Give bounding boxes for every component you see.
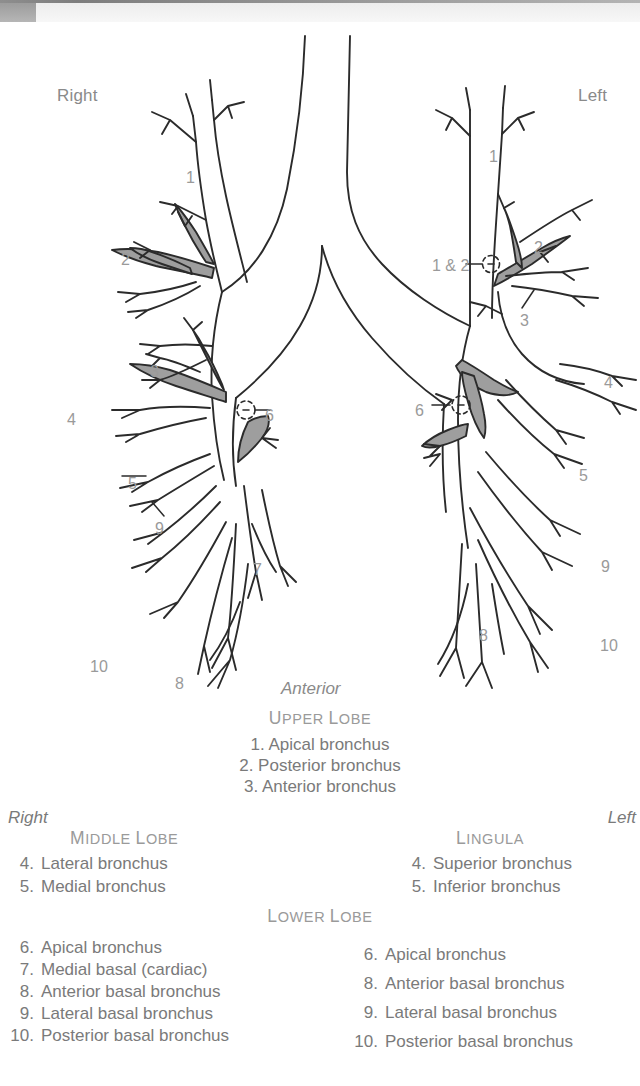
right-branch-e (140, 344, 212, 354)
legend-heading-lower-lobe: LOWER LOBE (0, 906, 640, 927)
legend-item: 1. Apical bronchus (0, 735, 640, 755)
legend-lower-right-items: 6.Apical bronchus7.Medial basal (cardiac… (8, 938, 308, 1046)
legend-item: 6.Apical bronchus (8, 938, 308, 958)
legend-item-number: 6. (8, 938, 34, 958)
legend-item-label: Posterior basal bronchus (385, 1032, 573, 1052)
legend-item-label: Anterior basal bronchus (385, 974, 565, 994)
left-upper-branch-e (520, 200, 592, 242)
legend-left-lingula-column: Left LINGULA 4.Superior bronchus5.Inferi… (400, 808, 636, 900)
heading-rest-lobe2: OBE (146, 831, 178, 847)
callout-number-l-10: 10 (600, 638, 618, 654)
figure-legend: UPPER LOBE 1. Apical bronchus2. Posterio… (0, 700, 640, 1086)
callout-number-l-1-2: 1 & 2 (432, 258, 469, 274)
legend-heading-middle-lobe: MIDDLE LOBE (8, 828, 288, 849)
orientation-label-left: Left (578, 86, 607, 106)
legend-item-label: Lateral basal bronchus (41, 1004, 213, 1024)
left-ant-basal-8d (492, 584, 504, 654)
legend-item-label: Posterior basal bronchus (41, 1026, 229, 1046)
legend-upper-lobe-items: 1. Apical bronchus2. Posterior bronchus3… (0, 735, 640, 797)
left-lateral-basal-9 (486, 452, 580, 536)
left-apical-lower-tip-b (436, 394, 452, 410)
bronchial-tree-drawing (0, 24, 640, 700)
left-apical-branch-a (436, 110, 470, 136)
legend-item-number: 4. (400, 854, 426, 874)
legend-middle-lobe-items: 4.Lateral bronchus5.Medial bronchus (8, 854, 288, 897)
callout-number-r-7: 7 (253, 562, 262, 578)
bronchial-tree-figure: Right Left Anterior 1234567891011 & 2234… (0, 24, 640, 700)
legend-item-number: 8. (8, 982, 34, 1002)
callout-number-r-10: 10 (90, 659, 108, 675)
right-ant-tip-a (184, 318, 202, 330)
scan-corner-tab (0, 3, 36, 22)
scan-header-bar (0, 0, 640, 24)
carina-right (322, 246, 444, 404)
legend-item-number: 9. (8, 1004, 34, 1024)
left-post-basal-10 (470, 508, 552, 634)
right-upper-branch-c (118, 282, 196, 302)
left-apical-branch-b (502, 112, 534, 134)
legend-side-label-right: Right (8, 808, 288, 828)
callout-number-r-4: 4 (67, 412, 76, 428)
callout-number-l-9: 9 (601, 559, 610, 575)
left-lingula-5 (506, 380, 584, 444)
legend-item: 9.Lateral basal bronchus (352, 1003, 636, 1023)
legend-item: 2. Posterior bronchus (0, 756, 640, 776)
legend-item: 7.Medial basal (cardiac) (8, 960, 308, 980)
legend-item-number: 6. (352, 945, 378, 965)
callout-number-l-8: 8 (479, 628, 488, 644)
left-leader-3 (522, 290, 534, 308)
legend-heading-lingula: LINGULA (400, 828, 636, 849)
right-medial-5b (130, 466, 214, 512)
legend-lower-left-column: 6.Apical bronchus8.Anterior basal bronch… (352, 936, 636, 1061)
legend-item: 5.Medial bronchus (8, 877, 288, 897)
right-medial-basal-7b (262, 490, 296, 586)
legend-item-label: Medial bronchus (41, 877, 166, 897)
legend-item: 4.Lateral bronchus (8, 854, 288, 874)
right-apical-branch-a (152, 112, 196, 142)
legend-item: 10.Posterior basal bronchus (8, 1026, 308, 1046)
legend-item-label: Anterior basal bronchus (41, 982, 221, 1002)
trachea-left-wall (222, 36, 305, 292)
right-lateral-4 (112, 407, 210, 418)
legend-right-middle-column: Right MIDDLE LOBE 4.Lateral bronchus5.Me… (8, 808, 288, 900)
callout-number-r-1: 1 (186, 170, 195, 186)
callout-number-r-2: 2 (121, 252, 130, 268)
right-lateral-4b (116, 418, 206, 442)
left-post-tip-a (498, 194, 514, 208)
left-apical-tip (466, 86, 505, 110)
heading-cap-u: U (269, 708, 282, 728)
left-main-bronchus-inner (443, 404, 446, 512)
heading-cap-l3: L (330, 906, 340, 926)
legend-item-number: 7. (8, 960, 34, 980)
heading-rest-lobe3: OBE (340, 909, 372, 925)
legend-heading-upper-lobe: UPPER LOBE (0, 708, 640, 729)
view-label-anterior: Anterior (281, 679, 341, 699)
heading-cap-lo: L (267, 906, 277, 926)
legend-item-number: 4. (8, 854, 34, 874)
legend-side-label-left: Left (400, 808, 636, 828)
legend-lingula-items: 4.Superior bronchus5.Inferior bronchus (400, 854, 636, 897)
legend-item-number: 5. (400, 877, 426, 897)
legend-item-label: Medial basal (cardiac) (41, 960, 207, 980)
legend-item-label: Apical bronchus (385, 945, 506, 965)
heading-cap-m: M (70, 828, 85, 848)
legend-lower-left-items: 6.Apical bronchus8.Anterior basal bronch… (352, 945, 636, 1052)
callout-number-r-5: 5 (128, 476, 137, 492)
callout-number-l-4: 4 (604, 375, 613, 391)
legend-item-label: Lateral basal bronchus (385, 1003, 557, 1023)
right-apical-branch-b (214, 102, 244, 120)
legend-item: 3. Anterior bronchus (0, 777, 640, 797)
heading-rest-upper: PPER (282, 711, 324, 727)
right-leader-9 (152, 502, 164, 516)
legend-item: 8.Anterior basal bronchus (352, 974, 636, 994)
trachea-right-wall (347, 36, 470, 326)
legend-item: 6.Apical bronchus (352, 945, 636, 965)
legend-item-label: Inferior bronchus (433, 877, 561, 897)
left-seg3-arc (498, 292, 584, 384)
right-apical-tip (186, 80, 212, 116)
callout-number-l-5: 5 (579, 468, 588, 484)
callout-number-l-2: 2 (534, 240, 543, 256)
heading-rest-lower: OWER (278, 909, 326, 925)
legend-item: 10.Posterior basal bronchus (352, 1032, 636, 1052)
callout-number-l-6: 6 (415, 403, 424, 419)
